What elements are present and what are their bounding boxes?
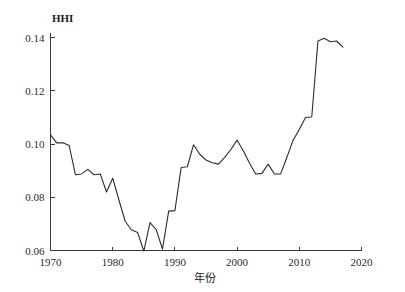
y-axis-tick-labels: 0.060.080.100.120.14 bbox=[25, 32, 45, 257]
x-tick-label: 2010 bbox=[288, 256, 311, 268]
x-tick-label: 1990 bbox=[164, 256, 187, 268]
y-axis-ticks bbox=[51, 38, 55, 251]
x-axis-ticks bbox=[51, 247, 362, 251]
data-series-group bbox=[51, 38, 343, 251]
data-line-hhi bbox=[51, 38, 343, 251]
x-axis-tick-labels: 197019801990200020102020 bbox=[40, 256, 374, 268]
y-tick-label: 0.12 bbox=[25, 85, 44, 97]
x-tick-label: 2000 bbox=[226, 256, 249, 268]
x-axis-title: 年份 bbox=[194, 271, 216, 284]
chart-figure: 0.060.080.100.120.14 1970198019902000201… bbox=[0, 0, 405, 292]
x-tick-label: 1980 bbox=[102, 256, 125, 268]
y-axis-title: HHI bbox=[52, 12, 73, 24]
y-tick-label: 0.08 bbox=[25, 191, 45, 203]
y-tick-label: 0.14 bbox=[25, 32, 45, 44]
y-tick-label: 0.10 bbox=[25, 138, 45, 150]
line-chart-canvas: 0.060.080.100.120.14 1970198019902000201… bbox=[0, 0, 405, 292]
x-tick-label: 1970 bbox=[40, 256, 63, 268]
x-tick-label: 2020 bbox=[351, 256, 374, 268]
